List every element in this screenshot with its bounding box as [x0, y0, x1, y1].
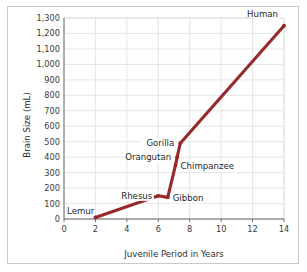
data-point-label: Lemur — [67, 206, 95, 216]
data-point — [282, 24, 286, 28]
y-tick-label: 300 — [44, 168, 60, 178]
x-tick-label: 14 — [279, 224, 289, 234]
y-axis-title: Brain Size (mL) — [22, 92, 32, 158]
x-axis-title: Juvenile Period in Years — [123, 249, 224, 259]
axes — [64, 18, 284, 219]
plot-area-border — [64, 18, 284, 219]
x-tick-label: 12 — [247, 224, 257, 234]
y-tick-label: 1,300 — [37, 13, 60, 23]
y-tick-label: 400 — [44, 152, 60, 162]
y-tick-label: 600 — [44, 121, 60, 131]
y-tick-label: 700 — [44, 106, 60, 116]
x-tick-label: 8 — [187, 224, 192, 234]
data-point-label: Chimpanzee — [181, 161, 234, 171]
x-axis-tick-labels: 02468101214 — [61, 219, 289, 234]
data-point-label: Orangutan — [125, 152, 171, 162]
data-point-labels: LemurRhesusGibbonChimpanzeeOrangutanGori… — [65, 9, 279, 217]
x-tick-label: 6 — [156, 224, 161, 234]
y-tick-label: 800 — [44, 90, 60, 100]
x-tick-label: 0 — [61, 224, 66, 234]
x-tick-label: 10 — [216, 224, 226, 234]
y-tick-label: 500 — [44, 137, 60, 147]
data-point — [174, 163, 178, 167]
x-tick-label: 2 — [93, 224, 98, 234]
data-point-label: Gorilla — [146, 138, 174, 148]
data-point — [175, 155, 179, 159]
y-tick-label: 1,000 — [37, 59, 60, 69]
y-tick-label: 900 — [44, 75, 60, 85]
y-tick-label: 100 — [44, 199, 60, 209]
data-point-label: Gibbon — [173, 193, 204, 203]
chart-figure: 01002003004005006007008009001,0001,1001,… — [0, 0, 307, 272]
y-axis-tick-labels: 01002003004005006007008009001,0001,1001,… — [37, 13, 60, 224]
data-point-label: Rhesus — [121, 191, 153, 201]
data-point — [178, 141, 182, 145]
y-tick-label: 0 — [55, 214, 60, 224]
brain-size-line-chart: 01002003004005006007008009001,0001,1001,… — [0, 0, 307, 272]
gridlines — [64, 18, 284, 219]
data-point-label: Human — [247, 9, 278, 19]
data-point — [156, 194, 160, 198]
x-tick-label: 4 — [124, 224, 129, 234]
y-tick-label: 200 — [44, 183, 60, 193]
y-tick-label: 1,100 — [37, 44, 60, 54]
y-tick-label: 1,200 — [37, 28, 60, 38]
data-point — [166, 195, 170, 199]
